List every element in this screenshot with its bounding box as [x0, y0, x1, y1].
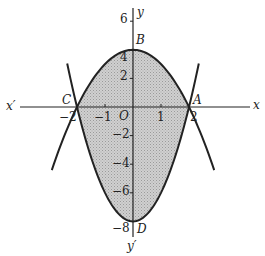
y-tick-label: 2 [120, 70, 128, 82]
point-label-a: A [193, 94, 202, 106]
x-axis-label: x [253, 99, 260, 111]
y-tick-label: 6 [120, 13, 128, 25]
y-tick-label: −8 [112, 222, 130, 234]
x-tick-label: 1 [157, 111, 165, 123]
x-tick-label: −2 [59, 111, 77, 123]
x-tick-label: 2 [190, 111, 198, 123]
origin-label: O [119, 110, 129, 122]
y-axis-label: y [137, 6, 144, 18]
y-tick-label: −6 [112, 185, 130, 197]
y-neg-axis-label: y′ [127, 240, 137, 252]
y-tick-label: 4 [120, 51, 128, 63]
point-label-c: C [62, 94, 71, 106]
x-tick-label: −1 [94, 111, 112, 123]
point-label-b: B [136, 34, 145, 46]
point-label-d: D [137, 223, 147, 235]
y-tick-label: −2 [112, 128, 130, 140]
parabola-region-diagram [0, 0, 265, 256]
y-tick-label: −4 [112, 157, 130, 169]
x-neg-axis-label: x′ [6, 100, 16, 112]
